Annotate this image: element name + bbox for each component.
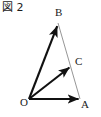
vertex-label-b: B xyxy=(55,7,62,18)
figure-container: 図 2 B C O A xyxy=(0,0,101,117)
vertex-label-c: C xyxy=(75,56,82,67)
vertex-label-a: A xyxy=(81,99,89,110)
vertex-label-o: O xyxy=(20,97,28,108)
